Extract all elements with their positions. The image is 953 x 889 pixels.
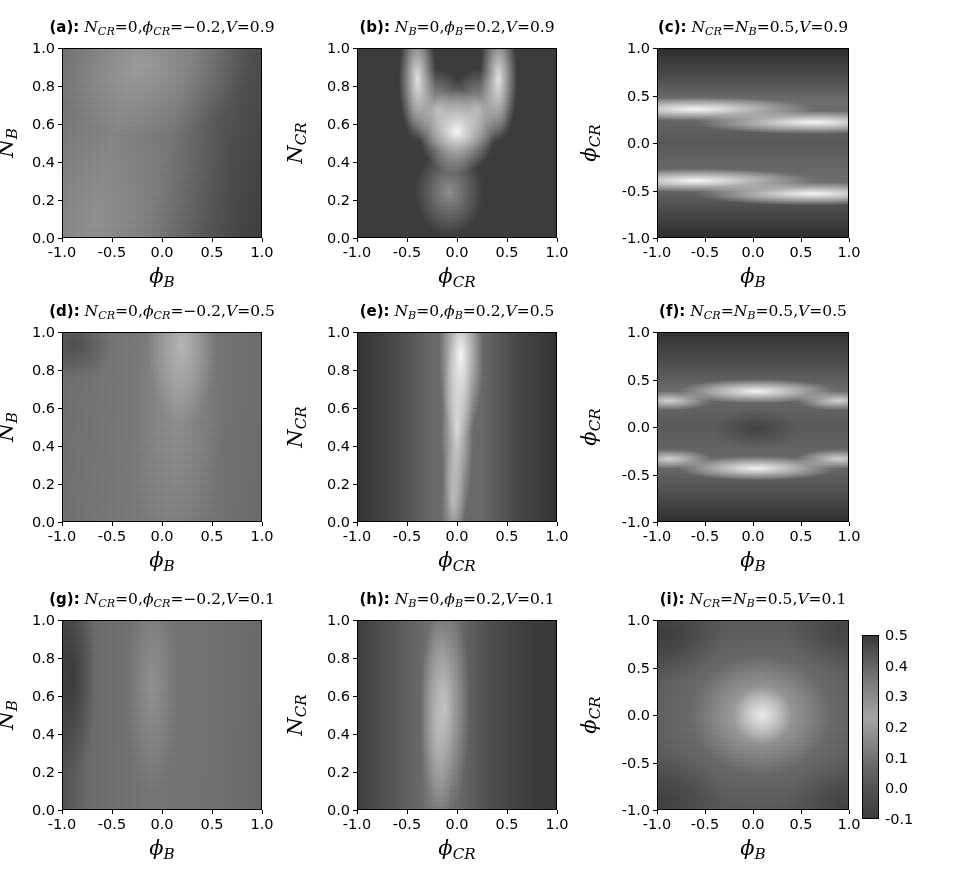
figure-panel-grid: (a): NCR=0,ϕCR=−0.2,V=0.9 1.0 0.8 0.6 0.…: [0, 0, 953, 889]
panel-b-ytick: 1.0: [327, 40, 357, 56]
panel-f: (f): NCR=NB=0.5,V=0.5 1.0 0.5 0.0 -0.5 -…: [657, 332, 849, 522]
panel-b-ytick: 0.6: [327, 116, 357, 132]
panel-d: (d): NCR=0,ϕCR=−0.2,V=0.5 1.0 0.8 0.6 0.…: [62, 332, 262, 522]
panel-i-xtick: 0.5: [789, 810, 812, 832]
panel-g-ytick: 0.6: [32, 688, 62, 704]
panel-h: (h): NB=0,ϕB=0.2,V=0.1 1.0 0.8 0.6 0.4 0…: [357, 620, 557, 810]
panel-d-xtick: -0.5: [98, 522, 126, 544]
panel-g: (g): NCR=0,ϕCR=−0.2,V=0.1 1.0 0.8 0.6 0.…: [62, 620, 262, 810]
colorbar-tick: 0.2: [879, 719, 908, 735]
panel-h-xtick: 0.5: [495, 810, 518, 832]
panel-d-ytick: 0.4: [32, 438, 62, 454]
panel-c-xtick: -1.0: [643, 238, 671, 260]
panel-d-xtick: 0.0: [150, 522, 173, 544]
panel-g-ytick: 0.4: [32, 726, 62, 742]
panel-b-xtick: 0.5: [495, 238, 518, 260]
panel-a-ytick: 0.8: [32, 78, 62, 94]
panel-b-axes: [357, 48, 557, 238]
panel-e-xtick: 0.5: [495, 522, 518, 544]
panel-f-ytick: 1.0: [627, 324, 657, 340]
panel-f-ytick: -0.5: [622, 467, 657, 483]
panel-e: (e): NB=0,ϕB=0.2,V=0.5 1.0 0.8 0.6 0.4 0…: [357, 332, 557, 522]
panel-f-title: (f): NCR=NB=0.5,V=0.5: [659, 302, 847, 322]
panel-i-title: (i): NCR=NB=0.5,V=0.1: [660, 590, 846, 610]
panel-d-title: (d): NCR=0,ϕCR=−0.2,V=0.5: [49, 302, 275, 322]
panel-c-xtick: 0.0: [741, 238, 764, 260]
panel-g-xtick: -1.0: [48, 810, 76, 832]
panel-e-xtick: -1.0: [343, 522, 371, 544]
panel-i-xtick: 1.0: [837, 810, 860, 832]
panel-i-ylabel: ϕCR: [577, 696, 604, 733]
panel-c-xtick: 0.5: [789, 238, 812, 260]
panel-h-xtick: 1.0: [545, 810, 568, 832]
panel-d-ytick: 0.8: [32, 362, 62, 378]
panel-g-xtick: 0.0: [150, 810, 173, 832]
panel-g-xlabel: ϕB: [149, 836, 174, 863]
panel-f-xtick: -1.0: [643, 522, 671, 544]
panel-i-ytick: 0.0: [627, 707, 657, 723]
panel-a-axes: [62, 48, 262, 238]
panel-b: (b): NB=0,ϕB=0.2,V=0.9 1.0 0.8 0.6 0.4 0…: [357, 48, 557, 238]
panel-e-xlabel: ϕCR: [438, 548, 475, 575]
panel-i-ytick: -0.5: [622, 755, 657, 771]
panel-g-title: (g): NCR=0,ϕCR=−0.2,V=0.1: [49, 590, 275, 610]
panel-f-noise: [658, 333, 848, 521]
colorbar-tick: 0.0: [879, 780, 908, 796]
panel-g-xtick: -0.5: [98, 810, 126, 832]
panel-b-noise: [358, 49, 556, 237]
panel-d-axes: [62, 332, 262, 522]
panel-f-axes: [657, 332, 849, 522]
panel-f-xtick: -0.5: [691, 522, 719, 544]
panel-e-axes: [357, 332, 557, 522]
panel-e-xtick: 0.0: [445, 522, 468, 544]
panel-h-xtick: -1.0: [343, 810, 371, 832]
panel-d-ytick: 1.0: [32, 324, 62, 340]
panel-a-ylabel: NB: [0, 128, 21, 157]
panel-e-ytick: 0.2: [327, 476, 357, 492]
panel-f-ylabel: ϕCR: [577, 408, 604, 445]
panel-e-ytick: 0.6: [327, 400, 357, 416]
panel-b-ylabel: NCR: [283, 122, 310, 163]
panel-i-xtick: -0.5: [691, 810, 719, 832]
panel-f-xtick: 1.0: [837, 522, 860, 544]
panel-e-xtick: -0.5: [393, 522, 421, 544]
panel-c-xtick: -0.5: [691, 238, 719, 260]
panel-g-noise: [63, 621, 261, 809]
panel-g-ytick: 0.8: [32, 650, 62, 666]
panel-b-xlabel: ϕCR: [438, 264, 475, 291]
panel-f-xlabel: ϕB: [740, 548, 765, 575]
panel-b-title: (b): NB=0,ϕB=0.2,V=0.9: [359, 18, 554, 38]
panel-b-xtick: 1.0: [545, 238, 568, 260]
panel-i-noise: [658, 621, 848, 809]
colorbar-gradient: [862, 635, 879, 819]
panel-i: (i): NCR=NB=0.5,V=0.1 1.0 0.5 0.0 -0.5 -…: [657, 620, 849, 810]
panel-a-xtick: -1.0: [48, 238, 76, 260]
panel-h-xtick: 0.0: [445, 810, 468, 832]
panel-h-axes: [357, 620, 557, 810]
panel-b-xtick: -0.5: [393, 238, 421, 260]
panel-b-ytick: 0.4: [327, 154, 357, 170]
panel-c-ytick: 0.0: [627, 135, 657, 151]
panel-c-xlabel: ϕB: [740, 264, 765, 291]
panel-h-ytick: 1.0: [327, 612, 357, 628]
panel-e-ytick: 1.0: [327, 324, 357, 340]
colorbar: 0.5 0.4 0.3 0.2 0.1 0.0 -0.1 intrinsic r…: [862, 635, 879, 819]
panel-g-axes: [62, 620, 262, 810]
panel-i-xtick: -1.0: [643, 810, 671, 832]
panel-e-xtick: 1.0: [545, 522, 568, 544]
panel-d-ytick: 0.6: [32, 400, 62, 416]
panel-a-xtick: 0.0: [150, 238, 173, 260]
panel-g-xtick: 1.0: [250, 810, 273, 832]
panel-h-title: (h): NB=0,ϕB=0.2,V=0.1: [359, 590, 554, 610]
panel-d-xtick: 1.0: [250, 522, 273, 544]
panel-d-noise: [63, 333, 261, 521]
panel-c-xtick: 1.0: [837, 238, 860, 260]
panel-a-ytick: 1.0: [32, 40, 62, 56]
panel-h-xlabel: ϕCR: [438, 836, 475, 863]
panel-c-axes: [657, 48, 849, 238]
panel-h-xtick: -0.5: [393, 810, 421, 832]
panel-e-ylabel: NCR: [283, 406, 310, 447]
colorbar-tick: -0.1: [879, 811, 913, 827]
panel-a-xtick: 1.0: [250, 238, 273, 260]
panel-c-ylabel: ϕCR: [577, 124, 604, 161]
